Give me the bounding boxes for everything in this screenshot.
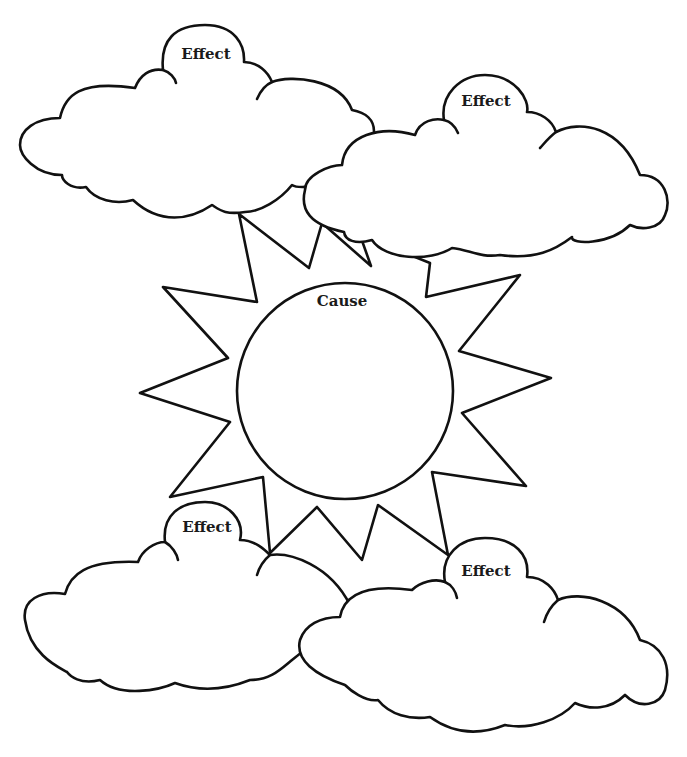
- effect-cloud-bottom-right[interactable]: Effect: [299, 538, 667, 732]
- effect-cloud-top-right[interactable]: Effect: [304, 75, 668, 257]
- sun-center-circle[interactable]: [237, 283, 453, 499]
- effect-label: Effect: [182, 518, 231, 536]
- cause-effect-diagram: Cause Effect Effect Effect Effect: [0, 0, 687, 757]
- cause-label: Cause: [317, 292, 368, 310]
- effect-label: Effect: [181, 45, 230, 63]
- effect-cloud-bottom-left[interactable]: Effect: [25, 502, 350, 691]
- effect-label: Effect: [461, 92, 510, 110]
- effect-label: Effect: [461, 562, 510, 580]
